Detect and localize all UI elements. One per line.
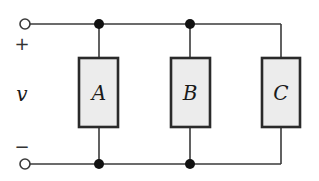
circuit-diagram: A B C + v − — [0, 0, 319, 181]
element-b: B — [171, 58, 210, 127]
element-a: A — [79, 58, 118, 127]
junction-node-top-b — [185, 19, 195, 29]
element-a-label: A — [90, 81, 106, 105]
junction-node-top-a — [94, 19, 104, 29]
element-c: C — [262, 58, 300, 127]
plus-sign: + — [14, 33, 29, 54]
element-b-label: B — [182, 81, 198, 105]
positive-terminal — [20, 19, 30, 29]
minus-sign: − — [14, 136, 29, 157]
junction-node-bottom-b — [185, 159, 195, 169]
negative-terminal — [20, 159, 30, 169]
voltage-label: v — [16, 82, 28, 106]
junction-node-bottom-a — [94, 159, 104, 169]
element-c-label: C — [273, 81, 288, 105]
